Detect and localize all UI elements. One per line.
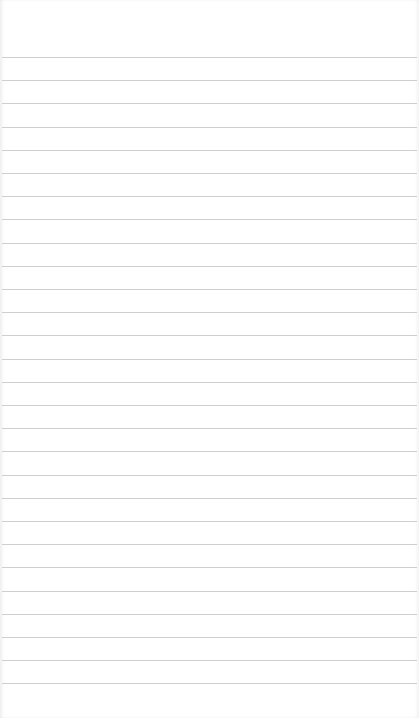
- ruled-line: [2, 475, 417, 476]
- ruled-line: [2, 219, 417, 220]
- ruled-line: [2, 196, 417, 197]
- ruled-line: [2, 498, 417, 499]
- ruled-line: [2, 683, 417, 684]
- ruled-line: [2, 359, 417, 360]
- ruled-line: [2, 428, 417, 429]
- ruled-line: [2, 335, 417, 336]
- ruled-line: [2, 266, 417, 267]
- ruled-line: [2, 127, 417, 128]
- ruled-line: [2, 80, 417, 81]
- ruled-line: [2, 591, 417, 592]
- ruled-line: [2, 103, 417, 104]
- ruled-line: [2, 637, 417, 638]
- ruled-line: [2, 289, 417, 290]
- ruled-line: [2, 567, 417, 568]
- ruled-line: [2, 660, 417, 661]
- ruled-line: [2, 544, 417, 545]
- ruled-line: [2, 312, 417, 313]
- ruled-line: [2, 614, 417, 615]
- ruled-line: [2, 173, 417, 174]
- ruled-line: [2, 150, 417, 151]
- ruled-line: [2, 57, 417, 58]
- ruled-line: [2, 243, 417, 244]
- ruled-line: [2, 405, 417, 406]
- lined-paper: [0, 0, 419, 718]
- ruled-line: [2, 451, 417, 452]
- ruled-line: [2, 521, 417, 522]
- ruled-line: [2, 382, 417, 383]
